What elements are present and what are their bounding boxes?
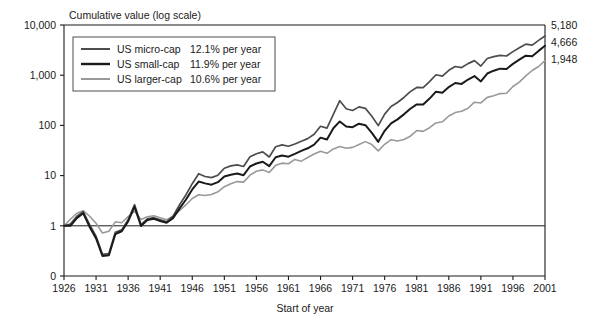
series-line-us-micro-cap	[64, 36, 545, 254]
x-tick-label: 2001	[533, 282, 557, 294]
chart-container: 10,0001,00010010101926193119361941194619…	[0, 0, 594, 326]
x-tick-label: 1991	[469, 282, 493, 294]
x-tick-label: 1996	[501, 282, 525, 294]
series-line-us-small-cap	[64, 46, 545, 256]
y-tick-label: 0	[50, 270, 56, 282]
y-tick-label: 10,000	[24, 19, 56, 31]
axis-lines	[60, 25, 545, 280]
x-tick-label: 1956	[245, 282, 269, 294]
x-tick-label: 1946	[181, 282, 205, 294]
x-tick-label: 1961	[277, 282, 301, 294]
y-tick-label: 1,000	[30, 69, 56, 81]
y-tick-label: 1	[50, 220, 56, 232]
y-tick-label: 10	[44, 169, 56, 181]
x-tick-label: 1926	[52, 282, 76, 294]
x-tick-label: 1986	[437, 282, 461, 294]
x-tick-label: 1931	[84, 282, 108, 294]
x-tick-label: 1976	[373, 282, 397, 294]
series-layer	[64, 36, 545, 256]
x-tick-label: 1966	[309, 282, 333, 294]
chart-canvas: 10,0001,00010010101926193119361941194619…	[0, 0, 594, 326]
x-tick-label: 1951	[213, 282, 237, 294]
x-tick-label: 1936	[116, 282, 140, 294]
x-tick-label: 1981	[405, 282, 429, 294]
x-tick-label: 1971	[341, 282, 365, 294]
y-tick-label: 100	[38, 119, 56, 131]
x-tick-label: 1941	[149, 282, 173, 294]
